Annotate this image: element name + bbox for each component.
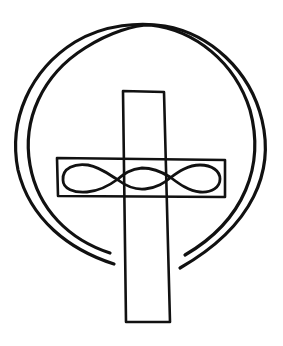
outer-halo-arc [16,24,266,268]
cross-vertical-beam [123,91,170,322]
inner-halo-arc [28,25,255,255]
cross-drawing: Hand-drawn cross with double circular ha… [0,0,283,346]
cross-illustration [0,0,283,346]
infinity-loop-band [63,165,220,193]
